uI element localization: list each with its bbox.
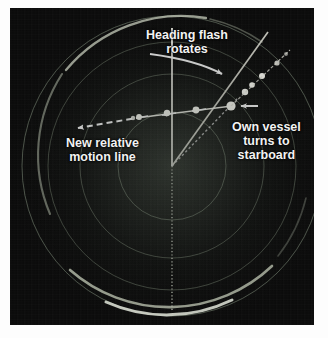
- radar-scope-canvas: [10, 8, 314, 325]
- scope-glow: [17, 11, 314, 321]
- radar-ppi-display[interactable]: Heading flash rotates Own vessel turns t…: [10, 8, 314, 325]
- screenshot-root: Heading flash rotates Own vessel turns t…: [0, 0, 328, 338]
